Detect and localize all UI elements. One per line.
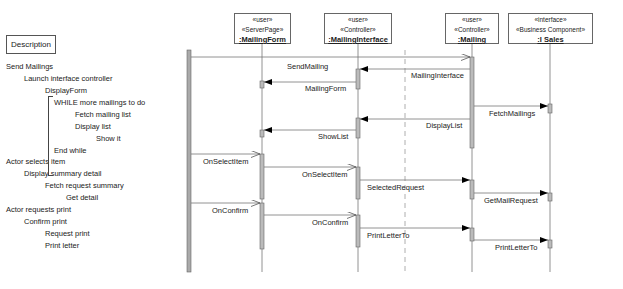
stereotype-controller: «Controller»	[446, 25, 498, 35]
stereotype-user: «user»	[235, 15, 290, 25]
message-label: DisplayList	[426, 121, 462, 130]
message-label: OnConfirm	[212, 206, 248, 215]
lifeline-name: :MailingInterface	[325, 35, 391, 45]
message-label: PrintLetterTo	[367, 231, 410, 240]
message-label: ShowList	[318, 132, 348, 141]
message-label: OnConfirm	[312, 218, 348, 227]
lifeline-name: :Mailing	[446, 35, 498, 45]
message-label: FetchMailings	[489, 109, 535, 118]
message-label: MailingInterface	[411, 71, 464, 80]
stereotype-interface: «interface»	[509, 15, 592, 25]
message-label: GetMailRequest	[484, 196, 538, 205]
actor-activation	[187, 50, 191, 272]
lifeline-name: :MailingForm	[235, 35, 290, 45]
stereotype-business-component: «Business Component»	[509, 25, 592, 35]
stereotype-controller: «Controller»	[325, 25, 391, 35]
message-label: PrintLetterTo	[495, 243, 538, 252]
stereotype-user: «user»	[446, 15, 498, 25]
lifeline-header-mailing: «user» «Controller» :Mailing	[445, 13, 499, 44]
message-label: OnSelectItem	[302, 170, 347, 179]
message-label: SendMailing	[287, 62, 328, 71]
message-label: MailingForm	[305, 84, 346, 93]
lifeline-header-isales: «interface» «Business Component» :I Sale…	[508, 13, 593, 44]
message-label: OnSelectItem	[203, 157, 248, 166]
lifeline-header-mailingform: «user» «ServerPage» :MailingForm	[234, 13, 291, 44]
message-label: SelectedRequest	[367, 183, 424, 192]
lifeline-name: :I Sales	[509, 35, 592, 45]
lifeline-header-mailinginterface: «user» «Controller» :MailingInterface	[324, 13, 392, 44]
stereotype-serverpage: «ServerPage»	[235, 25, 290, 35]
stereotype-user: «user»	[325, 15, 391, 25]
